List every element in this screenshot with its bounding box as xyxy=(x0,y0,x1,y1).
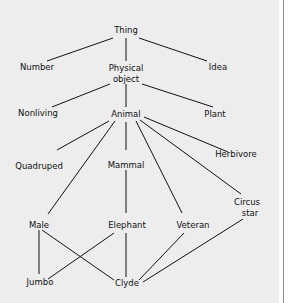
node-labels: Thing Number Physical object Idea Nonliv… xyxy=(15,25,260,288)
node-jumbo: Jumbo xyxy=(26,277,54,287)
node-mammal: Mammal xyxy=(108,160,145,170)
node-animal: Animal xyxy=(111,109,140,119)
node-nonliving: Nonliving xyxy=(18,108,58,118)
node-physical-object-line2: object xyxy=(113,74,140,84)
semantic-network-diagram: Thing Number Physical object Idea Nonliv… xyxy=(0,0,289,303)
node-herbivore: Herbivore xyxy=(215,149,257,159)
node-clyde: Clyde xyxy=(115,278,139,288)
node-physical-object-line1: Physical xyxy=(109,63,144,73)
node-veteran: Veteran xyxy=(176,220,209,230)
node-male: Male xyxy=(29,220,49,230)
node-idea: Idea xyxy=(209,62,227,72)
node-thing: Thing xyxy=(113,25,138,35)
node-circus-star-line2: star xyxy=(242,208,259,218)
node-circus-star-line1: Circus xyxy=(234,197,261,207)
node-plant: Plant xyxy=(204,109,226,119)
node-quadruped: Quadruped xyxy=(15,161,63,171)
node-number: Number xyxy=(20,62,55,72)
node-elephant: Elephant xyxy=(108,220,146,230)
